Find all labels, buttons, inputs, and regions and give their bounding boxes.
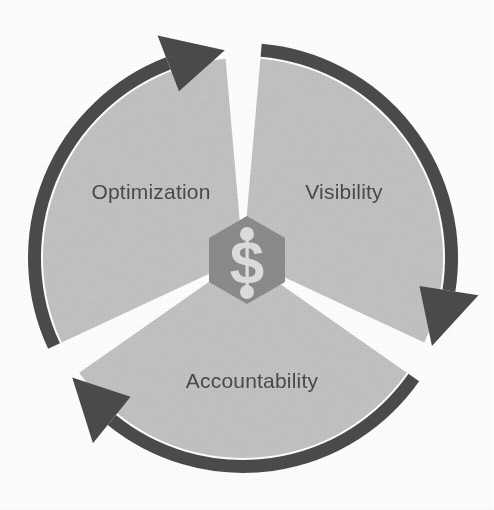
segment-label-accountability: Accountability [186, 369, 319, 392]
arrowhead-visibility-icon [419, 286, 478, 346]
segment-label-optimization: Optimization [91, 180, 210, 203]
center-currency-glyph: $ [230, 227, 264, 296]
cycle-svg: $ Optimization Visibility Accountability [0, 0, 494, 510]
segment-label-visibility: Visibility [305, 180, 383, 203]
cyclical-diagram: $ Optimization Visibility Accountability [0, 0, 494, 510]
